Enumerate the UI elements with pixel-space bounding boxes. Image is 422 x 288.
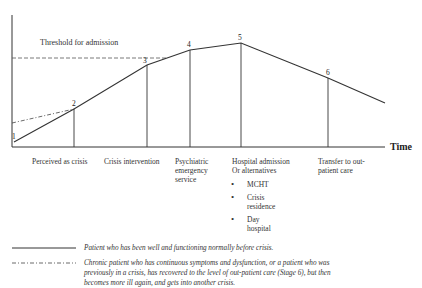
point-label-3: 3 [143, 56, 147, 65]
point-label-4: 4 [187, 40, 191, 49]
chronic-patient-line [12, 109, 74, 123]
time-axis-label: Time [390, 141, 412, 152]
point-label-2: 2 [72, 99, 76, 108]
alternative-item: MCHT [231, 180, 277, 189]
stage-label-perceived-crisis: Perceived as crisis [32, 157, 92, 166]
alternative-item: Crisis residence [231, 193, 277, 211]
stage-label-hospital-admission: Hospital admission Or alternatives [232, 157, 294, 175]
point-label-5: 5 [238, 33, 242, 42]
stage-label-crisis-intervention: Crisis intervention [104, 157, 164, 166]
alternative-item: Day hospital [231, 215, 277, 233]
point-label-1: 1 [12, 132, 16, 141]
stage-label-transfer-outpatient: Transfer to out-patient care [318, 157, 372, 175]
legend-solid-text: Patient who has been well and functionin… [84, 243, 344, 253]
alternatives-list: MCHT Crisis residence Day hospital [231, 180, 277, 237]
threshold-label: Threshold for admission [40, 38, 118, 47]
stage-label-psychiatric-emergency: Psychiatric emergency service [175, 157, 215, 184]
point-label-6: 6 [326, 68, 330, 77]
legend-dashdot-text: Chronic patient who has continuous sympt… [84, 258, 344, 288]
